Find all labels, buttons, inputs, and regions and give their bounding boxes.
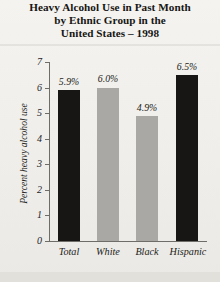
bar-value-black: 4.9% [131,103,163,113]
y-axis-line [49,62,50,242]
bar-total [58,90,80,241]
bar-value-hispanic: 6.5% [171,62,203,72]
y-tick-7 [45,62,49,63]
x-label-black: Black [127,246,167,257]
scan-artifact-bottom [0,272,220,282]
x-label-white: White [87,246,129,257]
y-tick-label-7: 7 [26,57,42,67]
x-axis-line [49,241,207,242]
bar-value-white: 6.0% [92,74,124,84]
y-tick-1 [45,215,49,216]
y-tick-5 [45,113,49,114]
scan-artifact-top [0,44,220,46]
y-tick-4 [45,139,49,140]
y-tick-3 [45,164,49,165]
chart-page: Heavy Alcohol Use in Past Month by Ethni… [0,0,220,282]
bar-hispanic [176,75,198,241]
y-tick-2 [45,190,49,191]
x-label-total: Total [49,246,89,257]
bar-black [136,116,158,241]
plot-area: 7 6 5 4 3 2 1 0 Percent heavy alcohol us… [0,0,220,282]
y-axis-title: Percent heavy alcohol use [18,79,29,229]
bar-white [97,88,119,241]
bar-value-total: 5.9% [53,77,85,87]
y-tick-6 [45,88,49,89]
x-label-hispanic: Hispanic [164,246,212,257]
y-tick-label-0: 0 [26,236,42,246]
y-tick-0 [45,241,49,242]
